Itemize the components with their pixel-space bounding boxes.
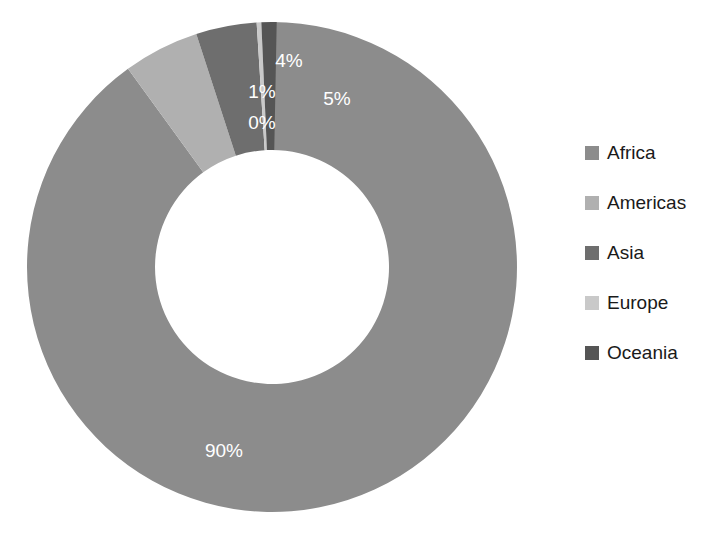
slice-value-label: 1% [248,81,276,102]
legend-swatch-asia [585,246,599,260]
slice-value-label: 4% [275,50,303,71]
legend-label-americas[interactable]: Americas [607,192,686,213]
legend-label-oceania[interactable]: Oceania [607,342,678,363]
legend-swatch-africa [585,146,599,160]
legend-swatch-europe [585,296,599,310]
slice-value-label: 5% [323,88,351,109]
legend-swatch-americas [585,196,599,210]
chart-legend: AfricaAmericasAsiaEuropeOceania [585,142,686,363]
legend-label-asia[interactable]: Asia [607,242,644,263]
slice-value-label: 90% [205,440,243,461]
slice-value-label: 0% [248,112,276,133]
legend-swatch-oceania [585,346,599,360]
legend-label-europe[interactable]: Europe [607,292,668,313]
donut-chart-figure: 90%5%4%0%1% AfricaAmericasAsiaEuropeOcea… [0,0,721,540]
donut-chart-svg: 90%5%4%0%1% AfricaAmericasAsiaEuropeOcea… [0,0,721,540]
legend-label-africa[interactable]: Africa [607,142,656,163]
